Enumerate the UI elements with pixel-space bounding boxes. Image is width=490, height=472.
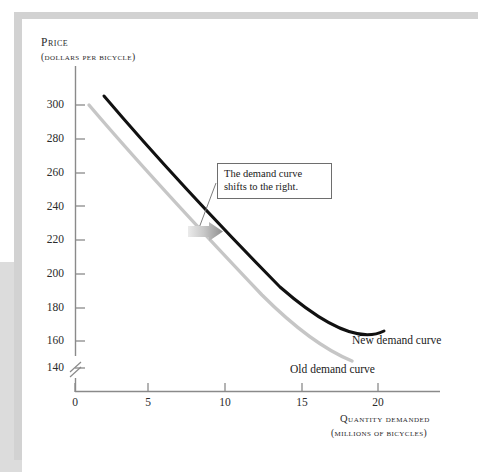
figure-root: Price (dollars per bicycle) 300 280 260 … <box>0 0 490 472</box>
new-demand-curve <box>104 96 384 335</box>
x-tick-marks <box>75 383 378 392</box>
axis-break-slash-1 <box>70 362 81 372</box>
y-tick-marks <box>75 105 85 368</box>
shift-arrow-icon <box>188 222 223 241</box>
plot-area <box>0 0 490 472</box>
